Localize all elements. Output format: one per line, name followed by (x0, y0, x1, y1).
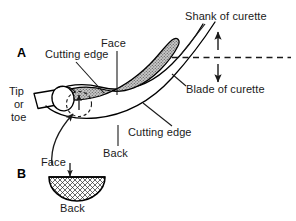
label-blade-of-curette: Blade of curette (186, 84, 265, 95)
cross-section-shape (49, 177, 105, 201)
label-cutting-edge-upper: Cutting edge (45, 49, 109, 60)
leader-shank (178, 24, 205, 58)
label-tip-line3: toe (11, 112, 26, 123)
label-face-cross-section: Face (41, 157, 66, 168)
panel-letter-a: A (17, 47, 26, 60)
label-cutting-edge-lower: Cutting edge (128, 127, 192, 138)
diagram-canvas (0, 0, 296, 221)
label-tip-line2: or (14, 99, 24, 110)
curette-diagram: A B Shank of curette Blade of curette Fa… (0, 0, 296, 221)
label-tip-line1: Tip (9, 86, 24, 97)
label-back-middle: Back (103, 148, 128, 159)
label-shank-of-curette: Shank of curette (185, 11, 267, 22)
label-back-cross-section: Back (60, 203, 85, 214)
leader-blade (172, 74, 186, 86)
panel-letter-b: B (17, 168, 26, 181)
leader-cutting-edge-lower (143, 103, 172, 126)
